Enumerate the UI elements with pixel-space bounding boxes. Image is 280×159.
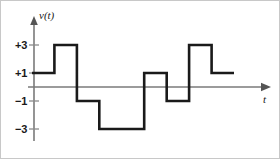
y-tick-label-plus-three: +3 [7,39,27,51]
y-axis [30,16,38,141]
y-axis-label: v(t) [39,9,54,21]
y-tick-label-minus-three: −3 [7,123,27,135]
x-axis [28,83,271,91]
y-tick-label-minus-one: −1 [7,95,27,107]
x-axis-label: t [263,93,266,105]
y-tick-label-plus-one: +1 [7,67,27,79]
waveform-figure: v(t) t +3 +1 −1 −3 [0,0,280,159]
plot-canvas [1,1,280,159]
